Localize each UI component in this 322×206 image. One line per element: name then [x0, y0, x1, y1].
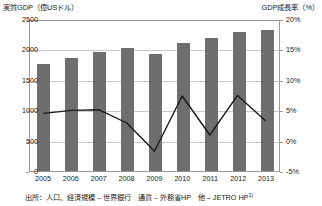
x-label-2012: 2012: [223, 174, 253, 184]
source-footnote: 出所：人口、経済規模 – 世界銀行 通貨 – 外務省HP 他 – JETRO H…: [25, 190, 318, 203]
x-label-2008: 2008: [112, 174, 142, 184]
x-label-2009: 2009: [140, 174, 170, 184]
left-tick-mark: [26, 50, 29, 51]
right-tick-label: 15%: [286, 46, 322, 54]
x-label-2013: 2013: [251, 174, 281, 184]
left-tick-mark: [26, 142, 29, 143]
right-tick-label: -5%: [286, 168, 322, 176]
growth-line-layer: [30, 21, 279, 171]
source-footnote-marker: 1): [248, 192, 253, 198]
left-tick-label: 2500: [0, 16, 38, 24]
x-label-2007: 2007: [84, 174, 114, 184]
right-tick-mark: [280, 111, 283, 112]
left-tick-mark: [26, 172, 29, 173]
right-tick-mark: [280, 50, 283, 51]
right-tick-label: 10%: [286, 77, 322, 85]
left-tick-label: 2000: [0, 46, 38, 54]
right-tick-mark: [280, 20, 283, 21]
right-tick-mark: [280, 81, 283, 82]
right-tick-label: 0%: [286, 138, 322, 146]
left-tick-mark: [26, 81, 29, 82]
plot-area: [29, 20, 280, 172]
right-tick-mark: [280, 142, 283, 143]
gdp-chart: 実質GDP（億USドル） GDP成長率（%） 05001000150020002…: [0, 0, 322, 206]
x-label-2005: 2005: [28, 174, 58, 184]
right-axis-title: GDP成長率（%）: [261, 3, 319, 12]
right-tick-label: 5%: [286, 107, 322, 115]
x-label-2010: 2010: [167, 174, 197, 184]
left-tick-mark: [26, 20, 29, 21]
right-tick-mark: [280, 172, 283, 173]
right-tick-label: 20%: [286, 16, 322, 24]
growth-line: [44, 95, 265, 151]
source-footnote-text: 出所：人口、経済規模 – 世界銀行 通貨 – 外務省HP 他 – JETRO H…: [25, 193, 248, 202]
x-axis-labels: 200520062007200820092010201120122013: [29, 174, 280, 186]
left-tick-mark: [26, 111, 29, 112]
x-label-2011: 2011: [195, 174, 225, 184]
x-label-2006: 2006: [56, 174, 86, 184]
left-tick-label: 1000: [0, 107, 38, 115]
left-tick-label: 1500: [0, 77, 38, 85]
left-axis-title: 実質GDP（億USドル）: [3, 3, 78, 12]
left-tick-label: 500: [0, 138, 38, 146]
